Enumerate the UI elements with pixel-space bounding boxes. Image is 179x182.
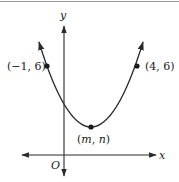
coordinate-plane: y x O (−1, 6) (4, 6) (m, n) xyxy=(0,0,179,182)
parabola-figure: y x O (−1, 6) (4, 6) (m, n) xyxy=(0,0,179,182)
right-point-dot xyxy=(134,63,139,68)
parabola-curve xyxy=(39,42,143,127)
vertex-label: (m, n) xyxy=(77,133,110,146)
x-axis-label: x xyxy=(159,149,166,162)
left-point-label: (−1, 6) xyxy=(7,60,46,73)
right-point-label: (4, 6) xyxy=(145,60,175,73)
y-axis-label: y xyxy=(59,9,67,22)
vertex-dot xyxy=(88,124,93,129)
origin-label: O xyxy=(51,159,60,172)
